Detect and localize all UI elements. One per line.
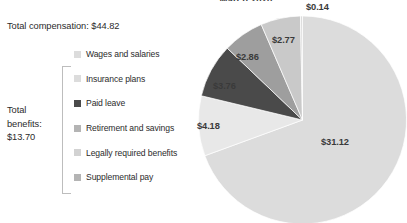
pie-data-label: $2.86 xyxy=(236,52,259,62)
legend-item-label: Legally required benefits xyxy=(86,148,177,158)
legend-item-label: Supplemental pay xyxy=(86,172,153,182)
benefits-bracket xyxy=(62,66,71,194)
chart-title: March 2020 xyxy=(186,0,306,1)
legend-swatch-icon xyxy=(74,75,81,82)
pie-chart: $0.14$2.77$2.86$3.76$4.18$31.12 xyxy=(198,8,407,223)
legend-item-legally-required-benefits: Legally required benefits xyxy=(74,140,196,165)
pie-data-label: $31.12 xyxy=(321,137,349,147)
pie-data-label: $3.76 xyxy=(213,81,236,91)
legend-swatch-icon xyxy=(74,125,81,132)
legend-swatch-icon xyxy=(74,51,81,58)
total-benefits-line-2: benefits: xyxy=(7,118,59,132)
chart-legend: Wages and salaries Insurance plans Paid … xyxy=(74,42,196,190)
pie-chart-svg xyxy=(198,8,407,223)
pie-data-label: $2.77 xyxy=(272,35,295,45)
pie-slice-group xyxy=(199,16,407,223)
legend-item-supplemental-pay: Supplemental pay xyxy=(74,165,196,190)
legend-item-retirement-and-savings: Retirement and savings xyxy=(74,116,196,141)
legend-item-wages-and-salaries: Wages and salaries xyxy=(74,42,196,67)
total-benefits-label: Total benefits: $13.70 xyxy=(7,104,59,145)
legend-item-insurance-plans: Insurance plans xyxy=(74,67,196,92)
legend-item-label: Wages and salaries xyxy=(86,49,159,59)
legend-swatch-icon xyxy=(74,174,81,181)
legend-item-label: Retirement and savings xyxy=(86,123,174,133)
legend-item-paid-leave: Paid leave xyxy=(74,91,196,116)
legend-swatch-icon xyxy=(74,100,81,107)
chart-screenshot: March 2020 Total compensation: $44.82 To… xyxy=(0,0,407,223)
legend-item-label: Paid leave xyxy=(86,98,125,108)
pie-data-label: $0.14 xyxy=(306,2,329,12)
pie-data-label: $4.18 xyxy=(197,121,220,131)
total-benefits-line-3: $13.70 xyxy=(7,131,59,145)
legend-item-label: Insurance plans xyxy=(86,74,145,84)
total-benefits-line-1: Total xyxy=(7,104,59,118)
legend-swatch-icon xyxy=(74,149,81,156)
total-compensation-label: Total compensation: $44.82 xyxy=(7,21,119,31)
